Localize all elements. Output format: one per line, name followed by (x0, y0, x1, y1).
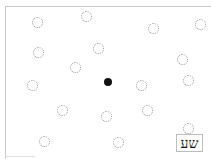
circle (142, 105, 153, 116)
circle (93, 43, 104, 54)
frame-left-border (5, 6, 6, 159)
circle (113, 137, 124, 148)
hebrew-label-text: שע (181, 135, 199, 152)
circle (136, 80, 147, 91)
frame-top-border (5, 6, 211, 7)
circle (70, 62, 81, 73)
circle (32, 17, 43, 28)
circle (177, 54, 188, 65)
circle (57, 105, 68, 116)
hebrew-label-box: שע (176, 134, 203, 152)
circle (33, 47, 44, 58)
center-black-dot (104, 78, 112, 86)
circle (81, 11, 92, 22)
circle (39, 136, 50, 147)
circle (101, 111, 112, 122)
circle (27, 80, 38, 91)
circle (148, 23, 159, 34)
circle (195, 19, 206, 30)
circle (183, 75, 194, 86)
circle (183, 123, 194, 134)
frame-bottom-border (5, 156, 35, 157)
